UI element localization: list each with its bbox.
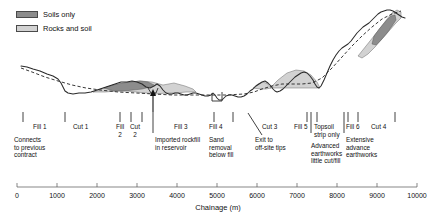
section-description-topsoil-strip-only: Advanced earthworks little cut/fill [311, 142, 342, 165]
legend-label: Soils only [43, 10, 75, 19]
figure-root: Soils only Rocks and soil Fill 1 Connect… [0, 0, 436, 222]
axis-title: Chainage (m) [0, 203, 436, 212]
axis-tick-label: 4000 [169, 192, 185, 200]
axis-tick-label: 1000 [49, 192, 65, 200]
axis-tick-label: 7000 [289, 192, 305, 200]
section-description-fill-3: Imported rockfill in reservoir [155, 136, 200, 151]
section-label-fill-5: Fill 5 [294, 123, 308, 131]
soils-only-region [372, 15, 396, 45]
section-label-cut-3: Cut 3 [262, 123, 277, 131]
legend-item-rocks-and-soil: Rocks and soil [16, 23, 156, 34]
chainage-axis [17, 183, 417, 187]
legend-label: Rocks and soil [43, 24, 92, 33]
section-description-fill-6: Extensive advance earthworks [346, 136, 377, 159]
axis-tick-label: 3000 [129, 192, 145, 200]
section-label-fill-4: Fill 4 [209, 123, 223, 131]
legend: Soils only Rocks and soil [16, 9, 156, 37]
section-label-cut-1: Cut 1 [73, 123, 88, 131]
section-label-fill-2: Fill 2 [116, 123, 124, 138]
axis-tick-label: 2000 [89, 192, 105, 200]
section-label-cut-2: Cut 2 [130, 123, 140, 138]
axis-tick-label: 9000 [369, 192, 385, 200]
section-description-fill-1: Connects to previous contract [14, 136, 45, 159]
section-description-fill-4: Sand removal below fill [209, 136, 234, 159]
axis-tick-label: 10000 [407, 192, 426, 200]
legend-swatch-icon [16, 11, 38, 18]
section-label-cut-4: Cut 4 [371, 123, 386, 131]
legend-item-soils-only: Soils only [16, 9, 156, 20]
section-description-cut-3: Exit to off-site tips [255, 136, 286, 151]
axis-tick-label: 8000 [329, 192, 345, 200]
section-annotations: Fill 1 Connects to previous contract Cut… [0, 108, 436, 176]
axis-tick-label: 5000 [209, 192, 225, 200]
section-label-fill-6: Fill 6 [346, 123, 360, 131]
section-label-topsoil-strip-only: Topsoil strip only [314, 123, 340, 138]
axis-tick-label: 6000 [249, 192, 265, 200]
axis-tick-label: 0 [15, 192, 19, 200]
legend-swatch-icon [16, 25, 38, 32]
section-label-fill-1: Fill 1 [33, 123, 47, 131]
section-label-fill-3: Fill 3 [174, 123, 188, 131]
